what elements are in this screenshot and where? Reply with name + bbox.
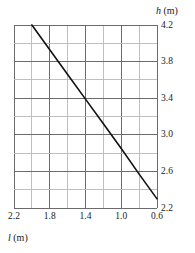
data-line-0 bbox=[32, 25, 157, 199]
y-axis-variable: h bbox=[156, 5, 161, 16]
y-axis-title: h (m) bbox=[156, 6, 178, 16]
y-axis-tick-label: 3.0 bbox=[161, 130, 173, 140]
x-axis-tick-label: 1.8 bbox=[37, 212, 63, 222]
x-axis-tick-label: 2.2 bbox=[1, 212, 27, 222]
x-axis-unit: (m) bbox=[13, 232, 27, 243]
x-axis-title: l (m) bbox=[8, 233, 28, 243]
x-axis-tick-label: 1.4 bbox=[73, 212, 99, 222]
y-axis-tick-label: 4.2 bbox=[161, 21, 173, 31]
y-axis-tick-label: 3.4 bbox=[161, 94, 173, 104]
x-axis-variable: l bbox=[8, 232, 11, 243]
figure-container: h (m) l (m) 4.23.83.43.02.62.22.21.81.41… bbox=[0, 0, 195, 253]
x-axis-tick-label: 1.0 bbox=[108, 212, 134, 222]
y-axis-tick-label: 2.6 bbox=[161, 167, 173, 177]
data-series-layer bbox=[14, 25, 157, 208]
plot-area bbox=[14, 25, 157, 208]
y-axis-unit: (m) bbox=[164, 5, 178, 16]
y-axis-tick-label: 3.8 bbox=[161, 57, 173, 67]
x-axis-tick-label: 0.6 bbox=[144, 212, 170, 222]
